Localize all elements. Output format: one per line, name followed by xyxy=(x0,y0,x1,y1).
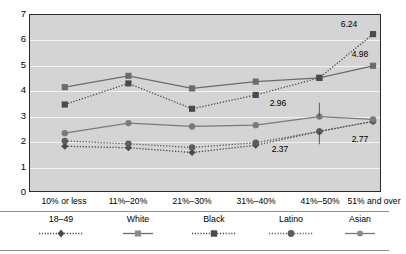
legend-item-asian[interactable]: Asian xyxy=(312,214,406,239)
y-tick-7: 7 xyxy=(4,9,26,19)
data-label-2-37: 2.37 xyxy=(272,145,289,154)
data-point xyxy=(253,122,259,128)
legend-label-asian: Asian xyxy=(312,214,406,225)
y-tick-4: 4 xyxy=(4,85,26,95)
data-point xyxy=(253,140,259,146)
data-point xyxy=(62,130,68,136)
y-axis: 7 6 5 4 3 2 1 0 xyxy=(0,14,26,192)
data-point xyxy=(189,144,195,150)
data-point xyxy=(125,120,131,126)
legend-swatch-square-solid-icon xyxy=(115,228,161,239)
data-point xyxy=(370,63,376,69)
series-layer xyxy=(30,15,380,191)
data-label-2-96: 2.96 xyxy=(270,99,287,108)
data-label-6-24: 6.24 xyxy=(341,20,358,29)
series-line-4 xyxy=(65,117,373,134)
x-tick-2: 21%–30% xyxy=(172,196,211,206)
data-point xyxy=(253,92,259,98)
y-tick-5: 5 xyxy=(4,60,26,70)
legend-swatch-diamond-dotted-icon xyxy=(38,228,84,239)
data-point xyxy=(125,141,131,147)
data-point xyxy=(253,79,259,85)
legend: 18–49 White Black xyxy=(0,214,389,248)
data-point xyxy=(370,31,376,37)
legend-bottom-divider xyxy=(0,250,389,251)
data-point xyxy=(62,138,68,144)
x-tick-1: 11%–20% xyxy=(109,196,148,206)
data-point xyxy=(189,106,195,112)
data-point xyxy=(189,123,195,129)
data-point xyxy=(62,101,68,107)
data-point xyxy=(125,80,131,86)
data-label-4-98: 4.98 xyxy=(352,50,369,59)
plot-area: 6.24 4.98 2.96 2.77 2.37 xyxy=(29,14,381,192)
data-point xyxy=(125,73,131,79)
x-tick-5: 51% and over xyxy=(347,196,400,206)
data-point xyxy=(370,116,376,122)
y-tick-0: 0 xyxy=(4,187,26,197)
series-line-2 xyxy=(65,34,373,109)
y-tick-1: 1 xyxy=(4,162,26,172)
series-line-1 xyxy=(65,66,373,89)
legend-top-divider xyxy=(0,211,389,212)
y-tick-2: 2 xyxy=(4,136,26,146)
x-tick-0: 10% or less xyxy=(42,196,87,206)
y-tick-6: 6 xyxy=(4,34,26,44)
data-label-2-77: 2.77 xyxy=(352,135,369,144)
data-point xyxy=(62,84,68,90)
y-tick-3: 3 xyxy=(4,111,26,121)
x-tick-4: 41%–50% xyxy=(300,196,339,206)
legend-swatch-circle-solid-icon xyxy=(337,228,383,239)
x-axis: 10% or less 11%–20% 21%–30% 31%–40% 41%–… xyxy=(29,196,381,210)
legend-swatch-circle-dotted-icon xyxy=(268,228,314,239)
x-tick-3: 31%–40% xyxy=(236,196,275,206)
legend-swatch-square-dotted-icon xyxy=(191,228,237,239)
data-point xyxy=(189,85,195,91)
data-point xyxy=(316,75,322,81)
